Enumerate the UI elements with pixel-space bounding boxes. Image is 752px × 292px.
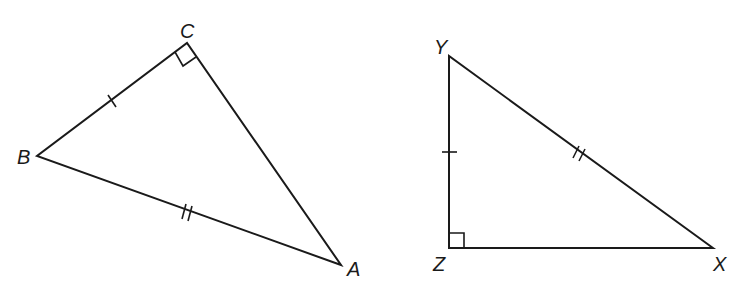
vertex-label-b: B bbox=[17, 146, 30, 168]
vertex-label-c: C bbox=[180, 20, 195, 42]
triangle-abc-outline bbox=[37, 43, 341, 265]
right-angle-marker-z bbox=[449, 233, 464, 248]
triangle-xyz: X Y Z bbox=[432, 36, 727, 275]
vertex-label-x: X bbox=[712, 253, 727, 275]
geometry-figure: A B C X Y Z bbox=[0, 0, 752, 292]
right-angle-marker-c bbox=[175, 52, 196, 66]
vertex-label-y: Y bbox=[434, 36, 449, 58]
triangle-xyz-outline bbox=[449, 56, 713, 248]
vertex-label-z: Z bbox=[432, 253, 446, 275]
vertex-label-a: A bbox=[346, 258, 360, 280]
triangle-abc: A B C bbox=[17, 20, 360, 280]
double-tick-mark-ab bbox=[182, 204, 192, 221]
